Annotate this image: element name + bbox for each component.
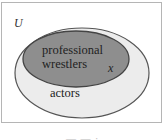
- figure-caption: — — ·: [66, 133, 99, 140]
- element-x-label: x: [108, 61, 113, 76]
- universe-label: U: [14, 16, 23, 31]
- actors-label: actors: [50, 86, 80, 101]
- professional-wrestlers-label-line-1: professional: [42, 43, 103, 57]
- professional-wrestlers-label: professional wrestlers: [42, 43, 103, 71]
- professional-wrestlers-label-line-2: wrestlers: [42, 57, 103, 71]
